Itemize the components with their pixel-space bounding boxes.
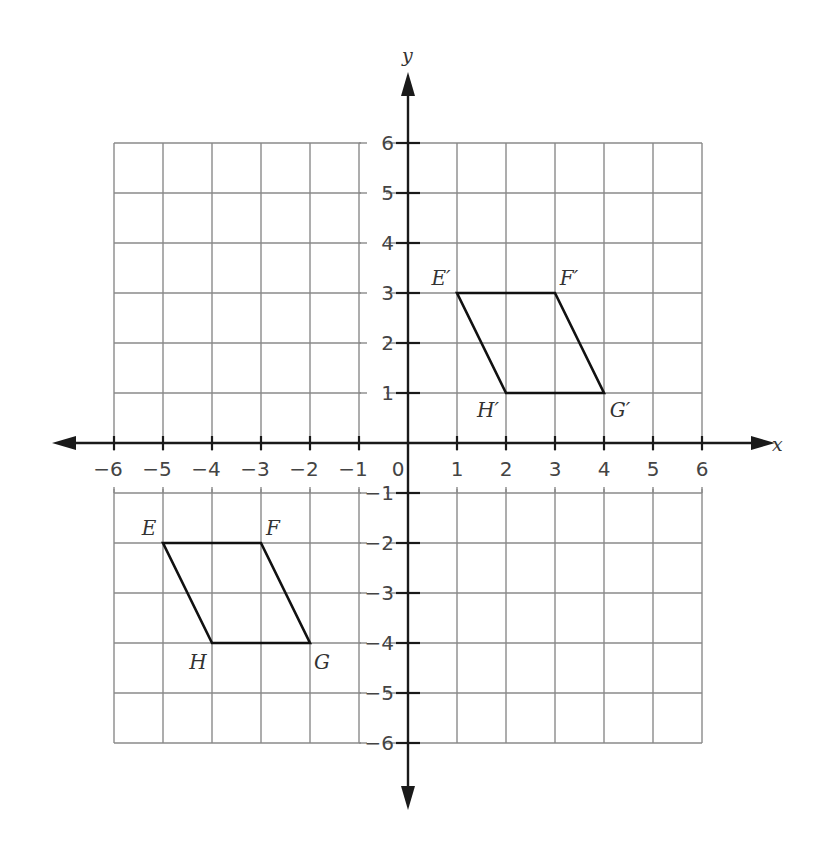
vertex-label: E [141, 516, 157, 540]
axes: x y [52, 44, 783, 810]
vertex-label: F [265, 516, 281, 540]
y-tick-label: −1 [365, 481, 394, 505]
y-tick-label: −2 [365, 531, 394, 555]
x-axis-left-arrow-icon [52, 436, 76, 450]
vertex-label: F′ [559, 266, 579, 290]
x-tick-label: 2 [500, 457, 513, 481]
y-tick-label: 4 [381, 231, 394, 255]
x-tick-label: −4 [191, 457, 220, 481]
y-tick-label: −6 [365, 731, 394, 755]
y-tick-label: 2 [381, 331, 394, 355]
graph-svg: x y −6−5−4−3−2−10123456123456−1−2−3−4−5−… [0, 0, 828, 844]
y-tick-label: 6 [381, 131, 394, 155]
x-tick-label: 4 [598, 457, 611, 481]
y-tick-label: 5 [381, 181, 394, 205]
y-tick-label: 1 [381, 381, 394, 405]
x-tick-label: −5 [142, 457, 171, 481]
y-axis-label: y [401, 44, 413, 66]
x-axis-label: x [772, 433, 783, 455]
x-tick-label: −1 [338, 457, 367, 481]
vertex-label: H [188, 650, 207, 674]
y-tick-label: −3 [365, 581, 394, 605]
x-tick-label: −3 [240, 457, 269, 481]
vertex-label: H′ [476, 398, 499, 422]
y-axis-down-arrow-icon [401, 786, 415, 810]
x-tick-label: 0 [392, 457, 405, 481]
x-tick-label: 3 [549, 457, 562, 481]
vertex-label: G′ [610, 398, 631, 422]
x-tick-label: 1 [451, 457, 464, 481]
y-tick-label: −5 [365, 681, 394, 705]
x-tick-label: −2 [289, 457, 318, 481]
coordinate-plane: x y −6−5−4−3−2−10123456123456−1−2−3−4−5−… [0, 0, 828, 844]
x-tick-label: 6 [696, 457, 709, 481]
x-tick-label: 5 [647, 457, 660, 481]
y-axis-up-arrow-icon [401, 72, 415, 96]
vertex-label: E′ [430, 266, 451, 290]
y-tick-label: −4 [365, 631, 394, 655]
x-tick-label: −6 [93, 457, 122, 481]
vertex-label: G [314, 650, 330, 674]
y-tick-label: 3 [381, 281, 394, 305]
